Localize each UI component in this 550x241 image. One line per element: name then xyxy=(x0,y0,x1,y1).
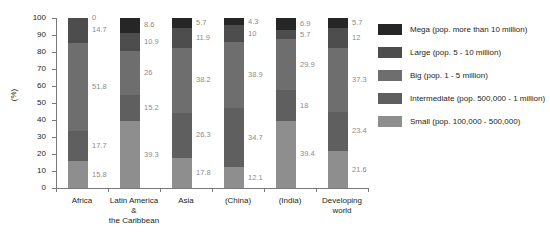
legend-label: Mega (pop. more than 10 million) xyxy=(410,26,527,34)
legend-label: Large (pop. 5 - 10 million) xyxy=(410,49,501,57)
bar-segment[interactable] xyxy=(224,42,244,108)
bar-segment[interactable] xyxy=(276,18,296,30)
bar-value-label: 34.7 xyxy=(248,134,263,142)
bar-value-label: 5.7 xyxy=(196,19,206,27)
bar-segment[interactable] xyxy=(328,112,348,152)
stacked-bar[interactable] xyxy=(120,18,140,188)
y-tick-label-40: 40 xyxy=(37,116,46,124)
legend-item[interactable]: Small (pop. 100,000 - 500,000) xyxy=(378,110,546,133)
bar-segment[interactable] xyxy=(120,51,140,95)
bar-segment[interactable] xyxy=(224,167,244,188)
bar-value-label: 15.2 xyxy=(144,105,159,113)
bar-group xyxy=(224,18,244,188)
y-tick-30: 30 xyxy=(52,137,56,138)
bar-value-label: 6.9 xyxy=(300,20,310,28)
chart-legend: Mega (pop. more than 10 million)Large (p… xyxy=(378,18,546,133)
plot-area: 0102030405060708090100 15.817.751.814.70… xyxy=(56,18,368,188)
bar-segment[interactable] xyxy=(328,151,348,188)
stacked-bar[interactable] xyxy=(276,18,296,188)
y-axis-line xyxy=(56,18,57,188)
bar-segment[interactable] xyxy=(328,18,348,28)
legend-item[interactable]: Big (pop. 1 - 5 million) xyxy=(378,64,546,87)
y-tick-100: 100 xyxy=(52,18,56,19)
y-tick-80: 80 xyxy=(52,52,56,53)
legend-swatch xyxy=(378,116,402,127)
stacked-bar[interactable] xyxy=(224,18,244,188)
x-tick-5 xyxy=(316,188,317,192)
bar-value-label: 0 xyxy=(92,14,96,22)
bar-value-label: 12 xyxy=(352,34,360,42)
bar-segment[interactable] xyxy=(68,131,88,161)
bar-value-label: 12.1 xyxy=(248,174,263,182)
bar-segment[interactable] xyxy=(120,18,140,33)
x-axis-label-line: (India) xyxy=(264,196,316,206)
bar-value-label: 17.7 xyxy=(92,142,107,150)
x-tick-4 xyxy=(264,188,265,192)
legend-label: Big (pop. 1 - 5 million) xyxy=(410,72,488,80)
bar-segment[interactable] xyxy=(172,18,192,28)
bar-segment[interactable] xyxy=(172,158,192,188)
bar-group xyxy=(68,18,88,188)
bar-segment[interactable] xyxy=(276,30,296,40)
legend-item[interactable]: Intermediate (pop. 500,000 - 1 million) xyxy=(378,87,546,110)
bar-segment[interactable] xyxy=(68,43,88,131)
bar-value-label: 37.3 xyxy=(352,76,367,84)
legend-label: Intermediate (pop. 500,000 - 1 million) xyxy=(410,95,545,103)
bar-segment[interactable] xyxy=(328,48,348,111)
x-axis-label: Africa xyxy=(56,196,108,206)
legend-item[interactable]: Large (pop. 5 - 10 million) xyxy=(378,41,546,64)
bar-segment[interactable] xyxy=(120,95,140,121)
x-axis-label-line: Asia xyxy=(160,196,212,206)
x-tick-0 xyxy=(56,188,57,192)
y-axis-title: (%) xyxy=(10,89,18,101)
bar-segment[interactable] xyxy=(172,113,192,158)
x-axis-label-line: Latin America & xyxy=(108,196,160,216)
y-tick-label-30: 30 xyxy=(37,133,46,141)
stacked-bar[interactable] xyxy=(68,18,88,188)
bar-segment[interactable] xyxy=(276,39,296,90)
bar-value-label: 11.9 xyxy=(196,34,210,42)
bar-segment[interactable] xyxy=(68,18,88,43)
bar-value-label: 38.9 xyxy=(248,72,263,80)
y-tick-10: 10 xyxy=(52,171,56,172)
stacked-bar[interactable] xyxy=(172,18,192,188)
bar-value-label: 10 xyxy=(248,30,256,38)
x-tick-2 xyxy=(160,188,161,192)
legend-item[interactable]: Mega (pop. more than 10 million) xyxy=(378,18,546,41)
legend-label: Small (pop. 100,000 - 500,000) xyxy=(410,118,520,126)
x-axis-label-line: Developing world xyxy=(316,196,368,216)
bar-segment[interactable] xyxy=(68,161,88,188)
bar-segment[interactable] xyxy=(224,25,244,42)
x-axis-label-line: Africa xyxy=(56,196,108,206)
x-axis-label: (China) xyxy=(212,196,264,206)
bar-segment[interactable] xyxy=(276,121,296,188)
bar-value-label: 17.8 xyxy=(196,169,211,177)
x-tick-1 xyxy=(108,188,109,192)
bar-segment[interactable] xyxy=(276,90,296,121)
y-tick-label-80: 80 xyxy=(37,48,46,56)
bar-value-label: 8.6 xyxy=(144,22,154,30)
chart-container: (%) 0102030405060708090100 15.817.751.81… xyxy=(0,0,550,241)
bar-value-label: 4.3 xyxy=(248,18,258,26)
bar-group xyxy=(172,18,192,188)
bar-segment[interactable] xyxy=(172,48,192,113)
bar-value-label: 18 xyxy=(300,102,308,110)
bar-group xyxy=(276,18,296,188)
y-tick-50: 50 xyxy=(52,103,56,104)
y-tick-90: 90 xyxy=(52,35,56,36)
x-tick-3 xyxy=(212,188,213,192)
x-axis-label: Asia xyxy=(160,196,212,206)
y-tick-40: 40 xyxy=(52,120,56,121)
bar-segment[interactable] xyxy=(120,33,140,52)
stacked-bar[interactable] xyxy=(328,18,348,188)
y-tick-label-100: 100 xyxy=(33,14,46,22)
bar-group xyxy=(120,18,140,188)
y-tick-label-20: 20 xyxy=(37,150,46,158)
y-tick-60: 60 xyxy=(52,86,56,87)
legend-swatch xyxy=(378,70,402,81)
bar-segment[interactable] xyxy=(224,108,244,167)
bar-segment[interactable] xyxy=(172,28,192,48)
bar-segment[interactable] xyxy=(120,121,140,188)
bar-segment[interactable] xyxy=(328,28,348,48)
bar-segment[interactable] xyxy=(224,18,244,25)
